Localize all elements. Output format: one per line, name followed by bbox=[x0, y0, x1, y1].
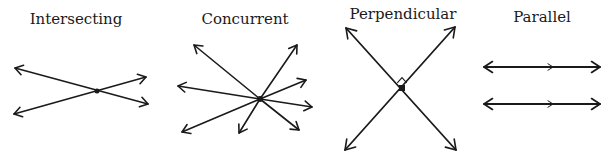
intersecting-line bbox=[15, 68, 148, 104]
concurrent-ray bbox=[182, 99, 260, 132]
right-angle-marker-icon bbox=[397, 78, 406, 83]
intersection-point bbox=[257, 96, 263, 102]
concurrent-lines-figure bbox=[178, 45, 312, 134]
intersection-point bbox=[399, 85, 405, 91]
intersecting-lines-figure bbox=[14, 65, 148, 116]
perpendicular-lines-figure bbox=[345, 27, 456, 150]
arrowhead-icon bbox=[289, 45, 297, 54]
parallel-lines-figure bbox=[484, 62, 600, 110]
intersection-point bbox=[95, 89, 100, 94]
intersecting-line bbox=[14, 77, 146, 114]
